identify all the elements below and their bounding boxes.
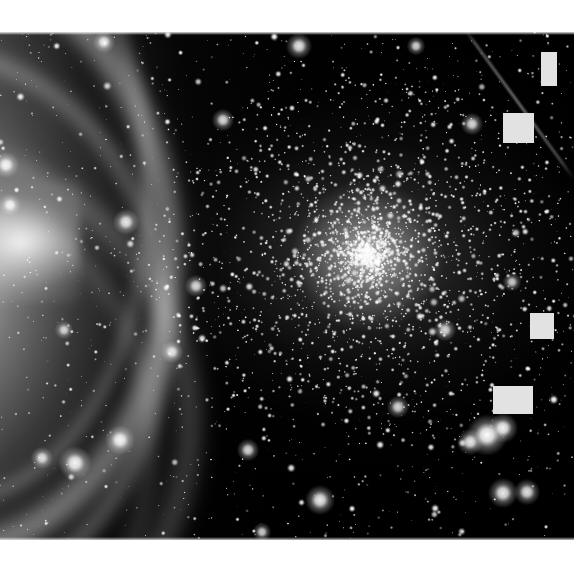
mask-patch-4 bbox=[493, 386, 533, 414]
mask-patch-3 bbox=[530, 313, 554, 339]
photographic-plate bbox=[0, 32, 574, 540]
sky-background bbox=[0, 32, 574, 540]
mask-patch-1 bbox=[541, 52, 557, 86]
mask-patch-2 bbox=[503, 113, 534, 143]
image-viewport bbox=[0, 0, 574, 573]
edge-glow-blob bbox=[0, 182, 80, 302]
